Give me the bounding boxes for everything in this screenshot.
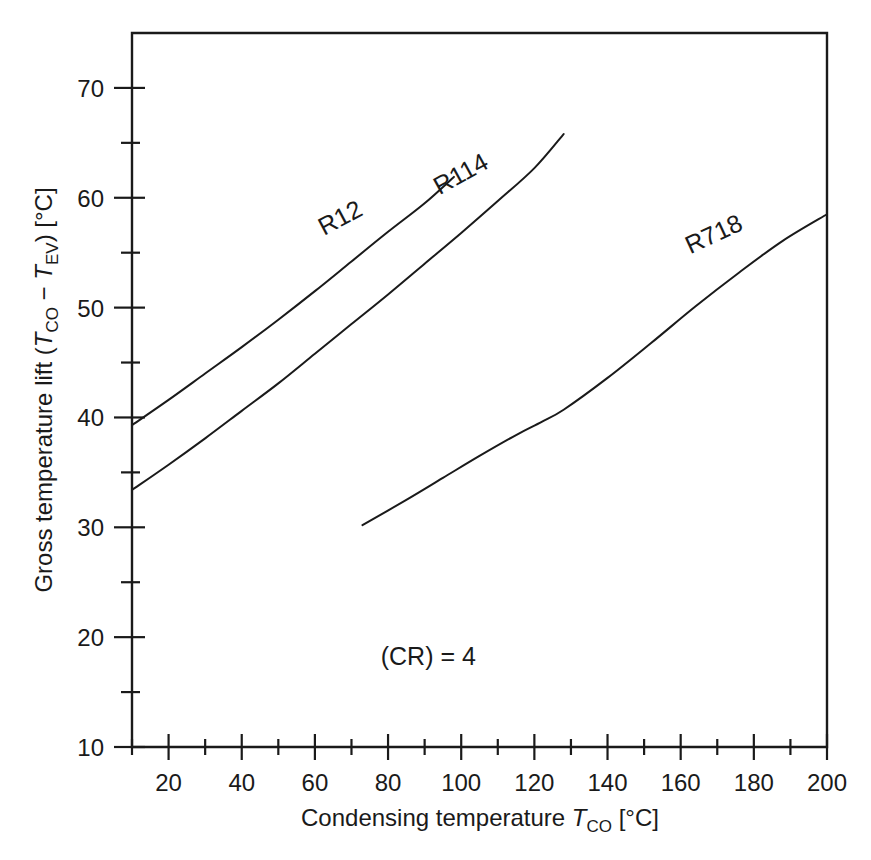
- x-tick-label: 200: [807, 769, 847, 796]
- y-tick-label: 30: [77, 514, 104, 541]
- series-line-r114: [132, 134, 564, 490]
- y-tick-label: 20: [77, 624, 104, 651]
- x-tick-label: 140: [588, 769, 628, 796]
- x-tick-label: 100: [441, 769, 481, 796]
- y-tick-label: 40: [77, 404, 104, 431]
- axes-frame: [132, 33, 827, 747]
- series-label-r718: R718: [680, 208, 746, 259]
- chart-figure: 20406080100120140160180200 1020304050607…: [0, 0, 871, 860]
- series-label-r12: R12: [313, 194, 367, 240]
- y-axis-ticks: [114, 88, 145, 747]
- y-tick-label: 60: [77, 185, 104, 212]
- data-series-group: [132, 134, 827, 525]
- x-tick-label: 40: [228, 769, 255, 796]
- series-line-r718: [362, 214, 827, 525]
- x-axis-title: Condensing temperature TCO [°C]: [301, 804, 659, 836]
- annotation-group: (CR) = 4: [381, 642, 476, 670]
- y-tick-label: 50: [77, 295, 104, 322]
- y-axis-title: Gross temperature lift (TCO − TEV) [°C]: [30, 187, 62, 592]
- x-tick-label: 20: [155, 769, 182, 796]
- x-tick-label: 80: [375, 769, 402, 796]
- series-label-group: R12R114R718: [313, 147, 746, 259]
- x-tick-label: 120: [514, 769, 554, 796]
- chart-plot-area: 20406080100120140160180200 1020304050607…: [0, 0, 871, 860]
- y-tick-label: 10: [77, 734, 104, 761]
- x-tick-label: 60: [302, 769, 329, 796]
- plot-border: [132, 33, 827, 747]
- y-axis-tick-labels: 10203040506070: [77, 75, 104, 761]
- series-line-r12: [132, 177, 454, 425]
- x-tick-label: 180: [734, 769, 774, 796]
- y-tick-label: 70: [77, 75, 104, 102]
- chart-annotation: (CR) = 4: [381, 642, 476, 670]
- x-axis-tick-labels: 20406080100120140160180200: [155, 769, 847, 796]
- x-tick-label: 160: [661, 769, 701, 796]
- series-label-r114: R114: [428, 147, 492, 200]
